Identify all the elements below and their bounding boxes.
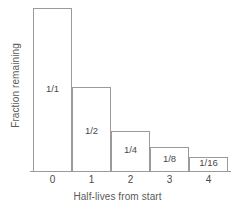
x-tick-4: 4	[189, 174, 228, 185]
y-axis-title: Fraction remaining	[0, 0, 30, 171]
x-tick-1: 1	[72, 174, 111, 185]
plot-area: 1/11/21/41/81/16	[33, 8, 228, 171]
bar-0: 1/1	[33, 8, 72, 171]
x-tick-2: 2	[111, 174, 150, 185]
x-tick-3: 3	[150, 174, 189, 185]
bar-value-label-0: 1/1	[34, 83, 71, 94]
bar-chart-figure: Fraction remaining 1/11/21/41/81/16 0123…	[0, 0, 235, 212]
x-axis-title: Half-lives from start	[0, 191, 235, 202]
bar-value-label-4: 1/16	[190, 157, 227, 168]
y-axis-title-text: Fraction remaining	[10, 43, 21, 128]
x-tick-0: 0	[33, 174, 72, 185]
bar-value-label-1: 1/2	[73, 125, 110, 136]
bar-4: 1/16	[189, 157, 228, 171]
bar-value-label-3: 1/8	[151, 153, 188, 164]
x-axis-line	[30, 171, 231, 172]
bar-value-label-2: 1/4	[112, 144, 149, 155]
bar-1: 1/2	[72, 87, 111, 171]
bar-2: 1/4	[111, 131, 150, 171]
x-axis-tick-labels: 01234	[33, 174, 228, 190]
bar-3: 1/8	[150, 147, 189, 171]
